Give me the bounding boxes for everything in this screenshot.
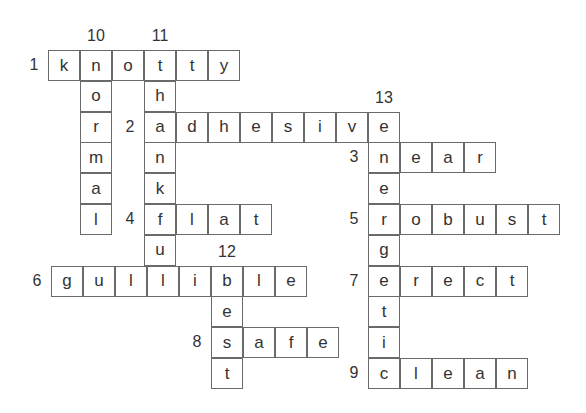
- grid-cell[interactable]: l: [80, 204, 112, 235]
- grid-cell[interactable]: i: [368, 327, 400, 358]
- grid-cell[interactable]: l: [115, 266, 147, 297]
- grid-cell[interactable]: i: [179, 266, 211, 297]
- grid-cell[interactable]: l: [400, 358, 432, 389]
- grid-cell[interactable]: n: [496, 358, 528, 389]
- grid-cell[interactable]: r: [464, 142, 496, 173]
- grid-cell[interactable]: a: [80, 173, 112, 204]
- grid-cell[interactable]: s: [211, 327, 243, 358]
- crossword-grid: knotty1adhesive2near3flat4robust5gullibl…: [0, 0, 586, 413]
- grid-cell[interactable]: i: [304, 112, 336, 143]
- clue-number: 5: [342, 209, 366, 229]
- grid-cell[interactable]: f: [275, 327, 307, 358]
- grid-cell[interactable]: d: [176, 112, 208, 143]
- grid-cell[interactable]: t: [211, 358, 243, 389]
- grid-cell[interactable]: k: [48, 50, 80, 81]
- grid-cell[interactable]: a: [432, 142, 464, 173]
- grid-cell[interactable]: e: [368, 266, 400, 297]
- grid-cell[interactable]: g: [368, 235, 400, 266]
- grid-cell[interactable]: s: [272, 112, 304, 143]
- clue-number: 6: [25, 271, 49, 291]
- clue-number: 1: [22, 55, 46, 75]
- clue-number: 13: [372, 88, 396, 108]
- grid-cell[interactable]: e: [432, 358, 464, 389]
- grid-cell[interactable]: e: [275, 266, 307, 297]
- grid-cell[interactable]: e: [400, 142, 432, 173]
- grid-cell[interactable]: v: [336, 112, 368, 143]
- grid-cell[interactable]: n: [80, 50, 112, 81]
- grid-cell[interactable]: o: [80, 81, 112, 112]
- grid-cell[interactable]: t: [144, 50, 176, 81]
- grid-cell[interactable]: e: [307, 327, 339, 358]
- grid-cell[interactable]: a: [144, 112, 176, 143]
- clue-number: 8: [185, 332, 209, 352]
- grid-cell[interactable]: l: [147, 266, 179, 297]
- grid-cell[interactable]: y: [208, 50, 240, 81]
- grid-cell[interactable]: f: [144, 204, 176, 235]
- grid-cell[interactable]: h: [208, 112, 240, 143]
- grid-cell[interactable]: t: [496, 266, 528, 297]
- grid-cell[interactable]: t: [240, 204, 272, 235]
- clue-number: 4: [118, 209, 142, 229]
- grid-cell[interactable]: t: [176, 50, 208, 81]
- grid-cell[interactable]: r: [368, 204, 400, 235]
- grid-cell[interactable]: l: [176, 204, 208, 235]
- grid-cell[interactable]: o: [112, 50, 144, 81]
- clue-number: 12: [215, 242, 239, 262]
- grid-cell[interactable]: k: [144, 173, 176, 204]
- grid-cell[interactable]: u: [83, 266, 115, 297]
- grid-cell[interactable]: o: [400, 204, 432, 235]
- grid-cell[interactable]: u: [464, 204, 496, 235]
- grid-cell[interactable]: c: [464, 266, 496, 297]
- grid-cell[interactable]: e: [432, 266, 464, 297]
- clue-number: 2: [118, 117, 142, 137]
- grid-cell[interactable]: a: [243, 327, 275, 358]
- grid-cell[interactable]: e: [240, 112, 272, 143]
- grid-cell[interactable]: e: [211, 296, 243, 327]
- grid-cell[interactable]: b: [432, 204, 464, 235]
- grid-cell[interactable]: m: [80, 142, 112, 173]
- grid-cell[interactable]: t: [368, 296, 400, 327]
- grid-cell[interactable]: n: [144, 142, 176, 173]
- clue-number: 9: [342, 363, 366, 383]
- grid-cell[interactable]: r: [80, 112, 112, 143]
- grid-cell[interactable]: l: [243, 266, 275, 297]
- grid-cell[interactable]: u: [144, 235, 176, 266]
- clue-number: 11: [148, 26, 172, 46]
- grid-cell[interactable]: a: [208, 204, 240, 235]
- grid-cell[interactable]: s: [496, 204, 528, 235]
- clue-number: 7: [342, 271, 366, 291]
- grid-cell[interactable]: e: [368, 173, 400, 204]
- grid-cell[interactable]: c: [368, 358, 400, 389]
- grid-cell[interactable]: n: [368, 142, 400, 173]
- grid-cell[interactable]: a: [464, 358, 496, 389]
- clue-number: 3: [342, 147, 366, 167]
- grid-cell[interactable]: e: [368, 112, 400, 143]
- clue-number: 10: [84, 26, 108, 46]
- grid-cell[interactable]: r: [400, 266, 432, 297]
- grid-cell[interactable]: g: [51, 266, 83, 297]
- grid-cell[interactable]: b: [211, 266, 243, 297]
- grid-cell[interactable]: t: [528, 204, 560, 235]
- grid-cell[interactable]: h: [144, 81, 176, 112]
